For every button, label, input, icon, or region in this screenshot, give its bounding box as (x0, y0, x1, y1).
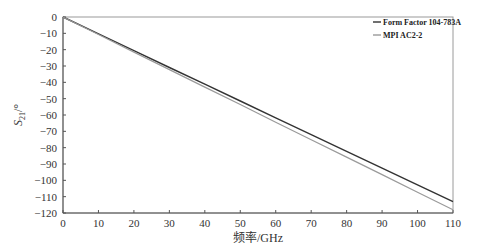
y-tick-label: −120 (34, 207, 57, 219)
y-tick-label: −20 (40, 44, 58, 56)
x-tick-label: 10 (93, 217, 105, 229)
y-tick-label: −90 (40, 158, 58, 170)
legend-label-1: Form Factor 104-783A (383, 18, 461, 27)
y-tick-label: −100 (34, 174, 57, 186)
x-tick-label: 0 (60, 217, 66, 229)
x-tick-label: 40 (199, 217, 211, 229)
y-tick-label: −70 (40, 125, 58, 137)
x-tick-label: 90 (377, 217, 389, 229)
legend-label-2: MPI AC2-2 (383, 31, 422, 40)
x-tick-label: 70 (306, 217, 318, 229)
x-tick-label: 60 (270, 217, 282, 229)
x-tick-label: 20 (128, 217, 140, 229)
x-tick-label: 110 (445, 217, 462, 229)
y-tick-label: −110 (35, 191, 58, 203)
y-tick-label: −40 (40, 76, 58, 88)
series-line-2 (63, 17, 453, 210)
y-tick-label: −80 (40, 142, 58, 154)
y-axis-ticks: 0−10−20−30−40−50−60−70−80−90−100−110−120 (34, 11, 66, 219)
x-tick-label: 30 (164, 217, 176, 229)
legend: Form Factor 104-783AMPI AC2-2 (373, 18, 461, 40)
y-tick-label: −60 (40, 109, 58, 121)
y-tick-label: −10 (40, 27, 58, 39)
x-tick-label: 50 (235, 217, 247, 229)
series-line-1 (63, 17, 453, 202)
y-axis-title: S21/° (11, 104, 27, 126)
line-chart: 0−10−20−30−40−50−60−70−80−90−100−110−120… (0, 0, 477, 250)
x-axis-title: 频率/GHz (233, 230, 283, 245)
x-tick-label: 80 (341, 217, 353, 229)
y-tick-label: −30 (40, 60, 58, 72)
data-lines (63, 17, 453, 210)
y-tick-label: 0 (52, 11, 58, 23)
y-tick-label: −50 (40, 93, 58, 105)
x-tick-label: 100 (409, 217, 426, 229)
